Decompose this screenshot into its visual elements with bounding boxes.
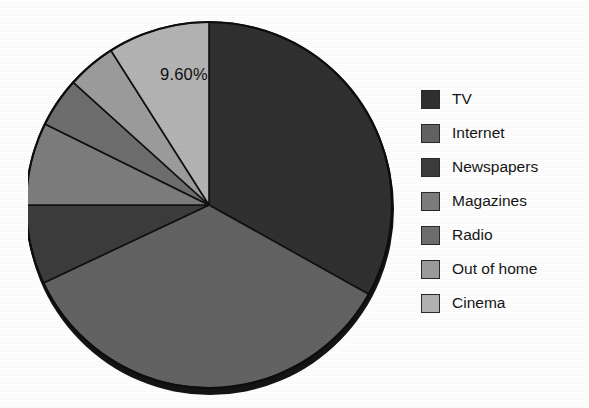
legend-swatch-tv	[421, 90, 440, 109]
pie-chart-figure: 9.60% TV Internet Newspapers Magazines R…	[0, 0, 589, 408]
legend-label-internet: Internet	[452, 125, 505, 141]
legend-swatch-out-of-home	[421, 260, 440, 279]
pie-slice-group	[28, 22, 392, 388]
legend-swatch-magazines	[421, 192, 440, 211]
legend-item-newspapers[interactable]: Newspapers	[421, 150, 581, 184]
pie-chart-area: 9.60%	[28, 8, 400, 400]
legend-label-magazines: Magazines	[452, 193, 527, 209]
legend-swatch-cinema	[421, 294, 440, 313]
legend-swatch-radio	[421, 226, 440, 245]
legend-swatch-internet	[421, 124, 440, 143]
pie-chart-svg: 9.60%	[28, 8, 400, 400]
chart-legend: TV Internet Newspapers Magazines Radio O…	[421, 82, 581, 320]
legend-swatch-newspapers	[421, 158, 440, 177]
slice-data-label-cinema: 9.60%	[160, 65, 208, 83]
legend-label-newspapers: Newspapers	[452, 159, 538, 175]
legend-item-magazines[interactable]: Magazines	[421, 184, 581, 218]
legend-label-radio: Radio	[452, 227, 493, 243]
legend-label-cinema: Cinema	[452, 295, 505, 311]
legend-item-internet[interactable]: Internet	[421, 116, 581, 150]
legend-label-tv: TV	[452, 91, 472, 107]
legend-item-tv[interactable]: TV	[421, 82, 581, 116]
legend-item-radio[interactable]: Radio	[421, 218, 581, 252]
legend-item-out-of-home[interactable]: Out of home	[421, 252, 581, 286]
legend-label-out-of-home: Out of home	[452, 261, 537, 277]
legend-item-cinema[interactable]: Cinema	[421, 286, 581, 320]
